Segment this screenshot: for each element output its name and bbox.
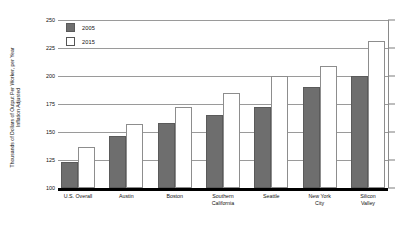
x-axis-label: Silicon Valley	[351, 193, 385, 207]
legend-item-2015: 2015	[66, 36, 95, 47]
x-axis-label: Austin	[109, 193, 143, 207]
bar-group	[254, 20, 288, 188]
bars-layer	[58, 20, 388, 188]
right-tick-250	[388, 20, 395, 21]
bar-chart: Thousands of Dollars of Output Per Worke…	[0, 0, 407, 230]
x-axis-label: Southern California	[206, 193, 240, 207]
legend-label-2015: 2015	[82, 39, 95, 45]
right-tick-175	[388, 104, 395, 105]
y-tick-label-200: 200	[46, 73, 55, 79]
legend-swatch-2015	[66, 37, 75, 46]
bar-2015[interactable]	[368, 41, 385, 188]
right-tick-100	[388, 188, 395, 189]
legend-item-2005: 2005	[66, 22, 95, 33]
y-tick-label-150: 150	[46, 129, 55, 135]
bar-group	[158, 20, 192, 188]
bar-group	[109, 20, 143, 188]
x-axis-label: New York City	[303, 193, 337, 207]
bar-2015[interactable]	[223, 93, 240, 188]
bar-group	[303, 20, 337, 188]
y-tick-label-250: 250	[46, 17, 55, 23]
bar-group	[206, 20, 240, 188]
y-tick-label-175: 175	[46, 101, 55, 107]
bar-2015[interactable]	[175, 107, 192, 188]
y-axis-title: Thousands of Dollars of Output Per Worke…	[9, 19, 22, 195]
bar-2005[interactable]	[206, 115, 223, 188]
plot-area: 100125150175200225250	[58, 20, 388, 188]
bar-2015[interactable]	[78, 147, 95, 188]
bar-2005[interactable]	[109, 136, 126, 188]
right-tick-125	[388, 160, 395, 161]
bar-group	[351, 20, 385, 188]
legend: 2005 2015	[66, 22, 95, 50]
gridline-100: 100	[58, 188, 388, 191]
bar-2015[interactable]	[126, 124, 143, 188]
right-tick-225	[388, 48, 395, 49]
right-axis-line	[388, 20, 389, 188]
bar-2005[interactable]	[158, 123, 175, 188]
x-axis-label: Seattle	[254, 193, 288, 207]
bar-2005[interactable]	[351, 76, 368, 188]
right-tick-150	[388, 132, 395, 133]
bar-2005[interactable]	[303, 87, 320, 188]
legend-label-2005: 2005	[82, 25, 95, 31]
bar-2005[interactable]	[254, 107, 271, 188]
right-tick-200	[388, 76, 395, 77]
bar-2015[interactable]	[271, 76, 288, 188]
legend-swatch-2005	[66, 23, 75, 32]
y-tick-label-225: 225	[46, 45, 55, 51]
bar-2015[interactable]	[320, 66, 337, 188]
x-axis-label: Boston	[158, 193, 192, 207]
bar-2005[interactable]	[61, 162, 78, 188]
x-axis-labels: U.S. OverallAustinBostonSouthern Califor…	[58, 193, 388, 207]
y-tick-label-100: 100	[46, 185, 55, 191]
x-axis-label: U.S. Overall	[61, 193, 95, 207]
y-tick-label-125: 125	[46, 157, 55, 163]
